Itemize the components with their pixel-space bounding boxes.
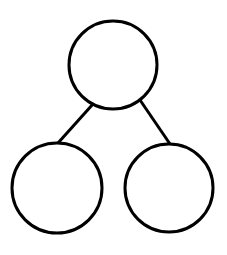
edge-root-left-child [58,104,93,143]
node-left-child [12,143,102,233]
tree-diagram [0,0,227,255]
node-root [69,21,157,109]
node-right-child [125,144,213,232]
nodes [12,21,213,233]
edge-root-right-child [140,100,170,144]
